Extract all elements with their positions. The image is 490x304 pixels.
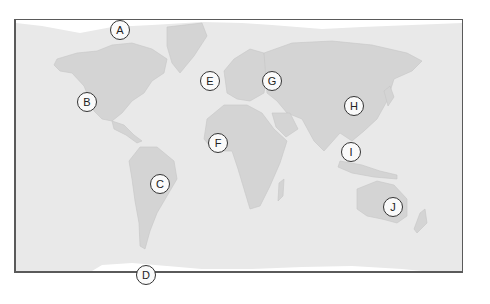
south-america xyxy=(129,147,177,249)
europe xyxy=(224,49,267,101)
map-label-c[interactable]: C xyxy=(150,174,170,194)
world-map xyxy=(14,19,463,273)
north-america xyxy=(54,43,167,121)
new-zealand xyxy=(414,209,427,233)
map-label-d[interactable]: D xyxy=(136,265,156,285)
madagascar xyxy=(278,179,284,201)
central-america xyxy=(112,121,142,143)
map-label-h[interactable]: H xyxy=(344,96,364,116)
indonesia xyxy=(338,161,397,179)
map-label-e[interactable]: E xyxy=(200,71,220,91)
land-masses xyxy=(16,20,463,273)
map-label-f[interactable]: F xyxy=(208,133,228,153)
map-label-j[interactable]: J xyxy=(383,197,403,217)
map-label-a[interactable]: A xyxy=(110,20,130,40)
map-label-i[interactable]: I xyxy=(341,142,361,162)
map-label-b[interactable]: B xyxy=(77,92,97,112)
greenland xyxy=(167,23,207,73)
arctic-ice xyxy=(16,20,463,33)
map-label-g[interactable]: G xyxy=(262,71,282,91)
